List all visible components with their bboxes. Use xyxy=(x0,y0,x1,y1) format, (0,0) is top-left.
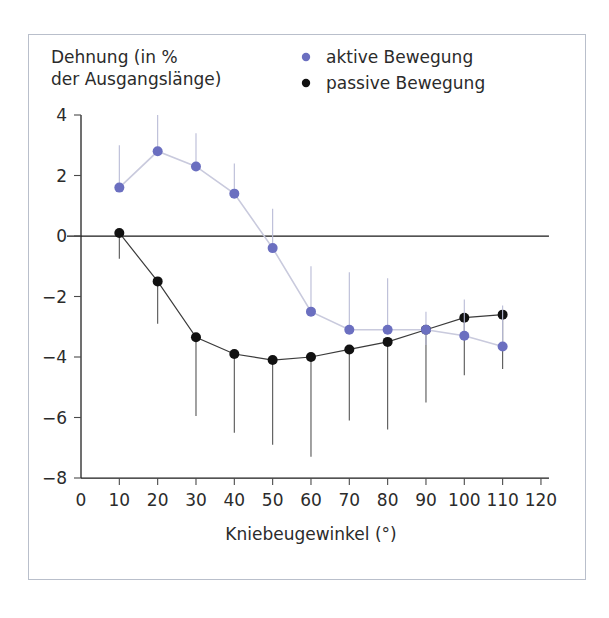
legend-label-active: aktive Bewegung xyxy=(326,47,473,67)
data-point-active-80 xyxy=(383,325,393,335)
y-tick-label-0: 4 xyxy=(56,105,67,125)
chart-canvas: Dehnung (in %der Ausgangslänge)aktive Be… xyxy=(29,35,585,579)
figure-root: Dehnung (in %der Ausgangslänge)aktive Be… xyxy=(0,0,609,618)
x-tick-label-11: 110 xyxy=(486,490,518,510)
y-tick-label-1: 2 xyxy=(56,166,67,186)
x-tick-label-10: 100 xyxy=(448,490,480,510)
x-tick-label-12: 120 xyxy=(525,490,557,510)
y-tick-label-5: −6 xyxy=(42,408,67,428)
data-point-active-50 xyxy=(268,243,278,253)
y-tick-label-2: 0 xyxy=(56,226,67,246)
data-point-passive-10 xyxy=(114,228,124,238)
data-point-active-70 xyxy=(344,325,354,335)
data-point-active-90 xyxy=(421,325,431,335)
y-tick-label-6: −8 xyxy=(42,468,67,488)
legend-marker-passive xyxy=(302,79,310,87)
x-tick-label-8: 80 xyxy=(377,490,399,510)
data-point-passive-70 xyxy=(344,344,354,354)
data-point-passive-40 xyxy=(229,349,239,359)
data-point-active-60 xyxy=(306,307,316,317)
x-tick-label-5: 50 xyxy=(262,490,284,510)
x-tick-label-2: 20 xyxy=(147,490,169,510)
data-point-active-20 xyxy=(153,146,163,156)
y-axis-label-line2: der Ausgangslänge) xyxy=(51,69,221,89)
data-point-active-110 xyxy=(498,341,508,351)
x-tick-label-3: 30 xyxy=(185,490,207,510)
data-point-passive-20 xyxy=(153,276,163,286)
x-tick-label-7: 70 xyxy=(338,490,360,510)
legend-marker-active xyxy=(302,53,310,61)
data-point-passive-30 xyxy=(191,332,201,342)
data-point-passive-60 xyxy=(306,352,316,362)
data-point-active-10 xyxy=(114,183,124,193)
x-tick-label-6: 60 xyxy=(300,490,322,510)
x-tick-label-4: 40 xyxy=(223,490,245,510)
x-tick-label-9: 90 xyxy=(415,490,437,510)
y-axis-label-line1: Dehnung (in % xyxy=(51,47,178,67)
y-tick-label-3: −2 xyxy=(42,287,67,307)
data-point-active-40 xyxy=(229,189,239,199)
data-point-active-100 xyxy=(459,331,469,341)
data-point-active-30 xyxy=(191,161,201,171)
series-line-active xyxy=(119,151,502,346)
data-point-passive-50 xyxy=(268,355,278,365)
y-tick-label-4: −4 xyxy=(42,347,67,367)
series-active-bewegung xyxy=(114,115,507,351)
data-point-passive-80 xyxy=(383,337,393,347)
figure-frame: Dehnung (in %der Ausgangslänge)aktive Be… xyxy=(28,34,586,580)
x-tick-label-0: 0 xyxy=(76,490,87,510)
x-axis-title: Kniebeugewinkel (°) xyxy=(225,524,396,544)
series-passive-bewegung xyxy=(114,228,507,457)
x-tick-label-1: 10 xyxy=(109,490,131,510)
legend-label-passive: passive Bewegung xyxy=(326,73,485,93)
